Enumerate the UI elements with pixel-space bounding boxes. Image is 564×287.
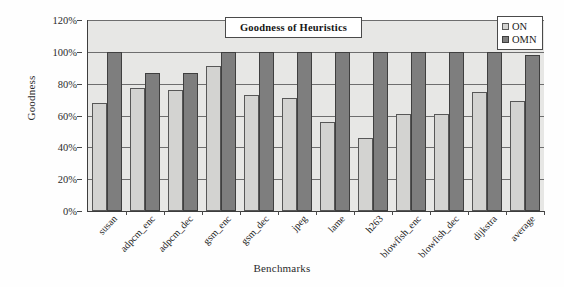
bar-group <box>202 20 240 211</box>
y-tick-mark <box>77 211 82 212</box>
y-tick-mark <box>77 52 82 53</box>
y-tick-mark <box>77 20 82 21</box>
chart-title: Goodness of Heuristics <box>225 17 362 38</box>
x-tick-label: lame <box>325 213 346 235</box>
bar-omn-susan <box>107 52 122 211</box>
y-tick-label: 40% <box>58 142 77 153</box>
y-tick-label: 100% <box>53 46 78 57</box>
x-axis-category-labels: susanadpcm_encadpcm_decgsm_encgsm_decjpe… <box>87 213 543 261</box>
bar-group <box>88 20 126 211</box>
bar-omn-blowfish_dec <box>449 52 464 211</box>
bar-omn-gsm_enc <box>221 52 236 211</box>
x-tick-label: jpeg <box>289 213 309 233</box>
x-tick-label: adpcm_enc <box>117 213 156 254</box>
bar-on-gsm_dec <box>244 95 259 211</box>
y-axis-tick-labels: 0%20%40%60%80%100%120% <box>36 20 82 211</box>
x-tick-label: adpcm_dec <box>155 213 194 254</box>
bar-on-jpeg <box>282 98 297 211</box>
bar-on-adpcm_dec <box>168 90 183 211</box>
bar-group <box>354 20 392 211</box>
bar-omn-average <box>525 55 540 211</box>
bar-on-blowfish_dec <box>434 114 449 211</box>
bar-omn-h263 <box>373 52 388 211</box>
bar-on-h263 <box>358 138 373 211</box>
bar-omn-jpeg <box>297 52 312 211</box>
x-tick-label: dijkstra <box>470 213 499 242</box>
bar-group <box>164 20 202 211</box>
bar-omn-adpcm_dec <box>183 73 198 211</box>
y-tick-label: 80% <box>58 78 77 89</box>
bars-layer <box>88 20 544 211</box>
legend: ON OMN <box>497 16 543 50</box>
bar-on-adpcm_enc <box>130 88 145 211</box>
bar-group <box>316 20 354 211</box>
y-tick-label: 120% <box>53 15 78 26</box>
x-tick-label: gsm_enc <box>200 213 232 246</box>
x-tick-label: average <box>507 213 536 243</box>
legend-swatch-omn-icon <box>502 36 509 43</box>
bar-group <box>278 20 316 211</box>
x-axis-title: Benchmarks <box>0 262 564 274</box>
bar-group <box>430 20 468 211</box>
x-tick-label: gsm_dec <box>238 213 270 246</box>
bar-omn-gsm_dec <box>259 52 274 211</box>
bar-omn-blowfish_enc <box>411 52 426 211</box>
bar-on-blowfish_enc <box>396 114 411 211</box>
y-tick-label: 60% <box>58 110 77 121</box>
x-tick-label: h263 <box>363 213 385 235</box>
y-tick-mark <box>77 147 82 148</box>
y-tick-mark <box>77 84 82 85</box>
legend-label-omn: OMN <box>512 34 537 45</box>
chart-figure: Goodness 0%20%40%60%80%100%120% Goodness… <box>0 0 564 287</box>
bar-omn-lame <box>335 52 350 211</box>
legend-item-omn: OMN <box>502 33 537 46</box>
plot-area <box>87 20 544 212</box>
x-tick-mark <box>544 211 545 215</box>
bar-group <box>240 20 278 211</box>
y-tick-label: 0% <box>63 206 77 217</box>
y-tick-mark <box>77 179 82 180</box>
bar-omn-adpcm_enc <box>145 73 160 211</box>
bar-on-lame <box>320 122 335 211</box>
x-tick-label: susan <box>95 213 118 237</box>
y-tick-label: 20% <box>58 174 77 185</box>
legend-label-on: ON <box>512 21 527 32</box>
bar-group <box>392 20 430 211</box>
bar-omn-dijkstra <box>487 52 502 211</box>
y-tick-mark <box>77 116 82 117</box>
bar-group <box>126 20 164 211</box>
legend-swatch-on-icon <box>502 23 509 30</box>
bar-on-dijkstra <box>472 92 487 211</box>
bar-on-average <box>510 101 525 211</box>
bar-on-susan <box>92 103 107 211</box>
bar-on-gsm_enc <box>206 66 221 211</box>
legend-item-on: ON <box>502 20 537 33</box>
